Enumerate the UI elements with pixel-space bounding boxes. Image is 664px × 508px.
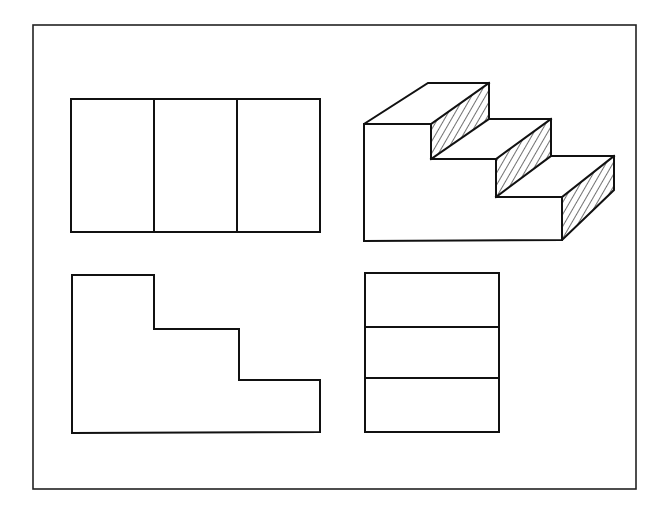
isometric-view — [364, 83, 614, 241]
riser-2-hatch — [496, 119, 551, 197]
top-view — [71, 99, 320, 232]
front-view — [72, 275, 320, 433]
side-view — [365, 273, 499, 432]
drawing-frame — [33, 25, 636, 489]
riser-1-hatch — [431, 83, 489, 159]
technical-drawing — [0, 0, 664, 508]
